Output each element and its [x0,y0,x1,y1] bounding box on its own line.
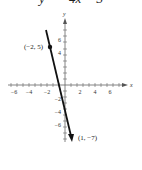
y-tick-label: 4 [58,50,61,56]
point-label: (−2, 5) [24,43,44,51]
x-axis: x −6 −4 −2 2 4 6 [8,82,133,95]
y-tick-label: −6 [55,122,61,128]
chart-plot: x −6 −4 −2 2 4 6 y 6 4 −2 −4 −6 [0,0,142,170]
line-arrow-icon [68,134,74,142]
x-tick-label: 2 [79,89,82,95]
y-axis-arrow-icon [63,18,67,24]
x-tick-label: 4 [94,89,97,95]
x-tick-label: −4 [26,89,32,95]
y-tick-label: 6 [58,37,61,43]
x-axis-arrow-icon [122,83,128,87]
x-tick-label: −2 [44,89,50,95]
data-point-marker [48,45,52,49]
y-tick-label: −4 [55,109,61,115]
x-tick-label: −6 [11,89,17,95]
x-axis-label: x [129,82,133,88]
x-tick-label: 6 [109,89,112,95]
y-tick-label: −2 [55,96,61,102]
point-label: (1, −7) [78,134,98,142]
y-axis-label: y [62,11,66,17]
